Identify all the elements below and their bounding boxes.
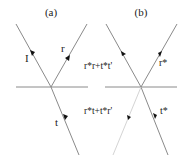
incident-ray-a: [16, 24, 51, 87]
label-transmitted: t: [55, 116, 58, 128]
upper-left-ray-b: [106, 24, 141, 87]
label-upper-left: r*r+t*t': [84, 61, 112, 71]
reflected-ray-a: [51, 24, 87, 87]
panel-b: (b) r*r+t*t' r* r*t+t*r' t*: [84, 6, 177, 155]
arrow-down-icon: [30, 50, 35, 56]
upper-right-ray-b: [141, 24, 177, 87]
panel-a-title: (a): [45, 6, 58, 19]
panel-a: (a) I r t: [16, 6, 88, 155]
label-upper-right: r*: [159, 57, 167, 68]
lower-right-ray-b: [141, 87, 168, 155]
label-lower-left: r*t+t*r': [84, 106, 112, 116]
lower-left-ray-b-faint: [113, 87, 141, 155]
arrow-up-icon: [121, 51, 126, 56]
arrow-up-icon: [65, 55, 70, 61]
panel-b-title: (b): [135, 6, 148, 19]
label-lower-right: t*: [160, 105, 168, 116]
label-reflected: r: [61, 42, 65, 54]
stokes-relations-diagram: (a) I r t (b) r*r+t*t' r* r*t+t*r' t*: [0, 0, 188, 162]
label-incident: I: [25, 52, 29, 64]
